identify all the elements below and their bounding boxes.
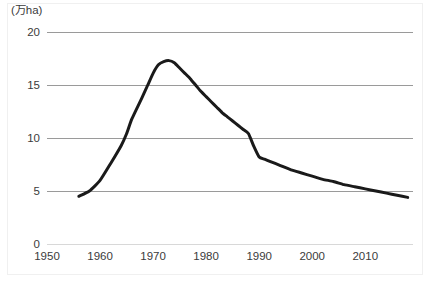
x-tick-label-1970: 1970 xyxy=(130,249,176,263)
series-line-area xyxy=(79,61,408,198)
x-tick-label-1990: 1990 xyxy=(236,249,282,263)
plot-area xyxy=(47,32,413,244)
y-tick-label-20: 20 xyxy=(6,26,40,38)
x-tick-label-2010: 2010 xyxy=(342,249,388,263)
line-chart-figure: (万ha) 05101520 1950196019701980199020002… xyxy=(0,0,431,281)
x-tick-label-1980: 1980 xyxy=(183,249,229,263)
x-tick-label-1960: 1960 xyxy=(77,249,123,263)
y-tick-label-15: 15 xyxy=(6,79,40,91)
y-tick-label-10: 10 xyxy=(6,132,40,144)
y-tick-label-5: 5 xyxy=(6,185,40,197)
x-axis-tick-labels: 1950196019701980199020002010 xyxy=(47,249,427,267)
y-axis-tick-labels: 05101520 xyxy=(0,32,40,244)
y-axis-unit-label: (万ha) xyxy=(11,3,42,17)
data-series-svg xyxy=(47,32,413,244)
gridline-y-0 xyxy=(47,244,413,245)
x-tick-label-1950: 1950 xyxy=(24,249,70,263)
x-tick-label-2000: 2000 xyxy=(289,249,335,263)
